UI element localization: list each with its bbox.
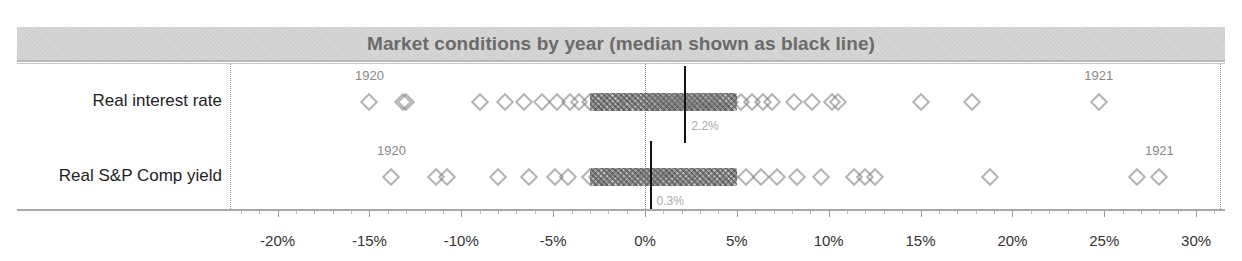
x-axis-tick-label: 5%: [726, 232, 748, 249]
x-axis-tick: [700, 211, 701, 214]
x-axis-tick: [572, 211, 573, 214]
median-value-label: 2.2%: [691, 119, 718, 133]
x-axis-tick: [957, 211, 958, 214]
x-axis-tick: [1012, 211, 1013, 217]
x-axis-tick: [939, 211, 940, 214]
x-axis-tick: [884, 211, 885, 214]
x-axis-tick: [1178, 211, 1179, 214]
x-axis-tick: [645, 211, 646, 217]
chart-title-band: Market conditions by year (median shown …: [17, 27, 1225, 62]
x-axis-tick-label: 30%: [1181, 232, 1211, 249]
x-axis-tick: [682, 211, 683, 214]
year-annotation: 1920: [377, 143, 406, 158]
x-axis-tick: [902, 211, 903, 214]
x-axis-tick: [278, 211, 279, 217]
x-axis-tick-label: 0%: [634, 232, 656, 249]
x-axis-tick: [1141, 211, 1142, 214]
x-axis-tick: [535, 211, 536, 214]
x-axis-tick: [1159, 211, 1160, 214]
x-axis-line: [17, 209, 1225, 211]
x-axis-tick: [296, 211, 297, 214]
x-axis-tick: [1104, 211, 1105, 217]
x-axis-tick: [590, 211, 591, 214]
x-axis-tick: [498, 211, 499, 214]
x-axis-tick-label: 10%: [814, 232, 844, 249]
x-axis-tick: [847, 211, 848, 214]
x-axis-tick: [241, 211, 242, 214]
x-axis-tick: [810, 211, 811, 214]
x-axis-tick: [369, 211, 370, 217]
year-annotation: 1921: [1145, 143, 1174, 158]
x-axis-tick: [718, 211, 719, 214]
year-annotation: 1921: [1084, 68, 1113, 83]
x-axis-tick: [663, 211, 664, 214]
x-axis-tick: [553, 211, 554, 217]
chart-title: Market conditions by year (median shown …: [17, 33, 1225, 55]
x-axis-tick-label: -20%: [260, 232, 295, 249]
x-axis-tick: [792, 211, 793, 214]
row-label-real-sp-comp-yield: Real S&P Comp yield: [59, 166, 222, 186]
median-line: [650, 141, 652, 209]
x-axis-tick: [480, 211, 481, 214]
plot-area: [230, 64, 1221, 209]
x-axis-tick: [829, 211, 830, 217]
x-axis-tick: [994, 211, 995, 214]
x-axis-tick: [1214, 211, 1215, 214]
x-axis-tick-label: 25%: [1089, 232, 1119, 249]
year-annotation: 1920: [355, 68, 384, 83]
zero-reference-line: [645, 64, 646, 209]
x-axis-tick: [755, 211, 756, 214]
x-axis-tick-label: -15%: [352, 232, 387, 249]
x-axis-tick: [406, 211, 407, 214]
median-value-label: 0.3%: [657, 194, 684, 208]
x-axis-tick: [1068, 211, 1069, 214]
x-axis-tick-label: 20%: [997, 232, 1027, 249]
x-axis-tick: [976, 211, 977, 214]
x-axis-tick: [425, 211, 426, 214]
x-axis-tick: [737, 211, 738, 217]
x-axis-tick: [921, 211, 922, 217]
x-axis-tick: [865, 211, 866, 214]
x-axis-tick: [259, 211, 260, 214]
x-axis-tick: [351, 211, 352, 214]
x-axis-tick: [443, 211, 444, 214]
x-axis-tick: [461, 211, 462, 217]
x-axis-tick: [1123, 211, 1124, 214]
x-axis-tick: [1086, 211, 1087, 214]
x-axis-tick: [314, 211, 315, 214]
x-axis-tick-label: -10%: [444, 232, 479, 249]
median-line: [684, 66, 686, 143]
x-axis-tick: [774, 211, 775, 214]
x-axis-tick-label: 15%: [906, 232, 936, 249]
x-axis-tick: [333, 211, 334, 214]
x-axis-tick: [627, 211, 628, 214]
x-axis-tick: [516, 211, 517, 214]
x-axis-tick: [1031, 211, 1032, 214]
row-label-real-interest-rate: Real interest rate: [93, 91, 222, 111]
x-axis-tick: [1049, 211, 1050, 214]
x-axis-tick: [388, 211, 389, 214]
x-axis-tick: [608, 211, 609, 214]
x-axis-tick: [1196, 211, 1197, 217]
x-axis-tick-label: -5%: [540, 232, 567, 249]
